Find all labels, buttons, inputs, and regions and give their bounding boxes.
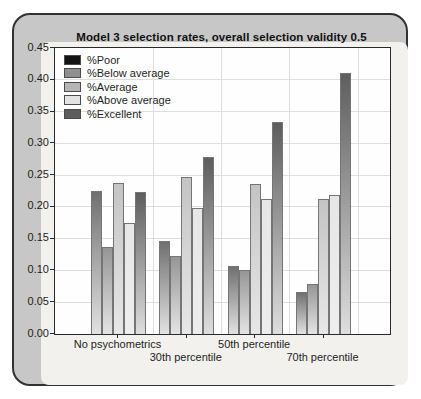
- group-boundary-gridline: [358, 48, 359, 334]
- legend: %Poor%Below average%Average%Above averag…: [64, 53, 171, 121]
- screenshot-page: Model 3 selection rates, overall selecti…: [0, 0, 421, 399]
- bar-below-average: [170, 256, 181, 334]
- x-category-label: 50th percentile: [184, 338, 324, 350]
- legend-item: %Below average: [64, 67, 171, 81]
- legend-label: %Above average: [87, 94, 171, 106]
- y-tick-mark: [50, 301, 54, 302]
- chart-title: Model 3 selection rates, overall selecti…: [44, 31, 399, 43]
- legend-item: %Poor: [64, 53, 171, 67]
- bar-average: [113, 183, 124, 334]
- y-tick-mark: [50, 47, 54, 48]
- y-tick-label: 0.25: [8, 169, 49, 180]
- y-tick-mark: [50, 333, 54, 334]
- bar-above-average: [261, 199, 272, 334]
- bar-excellent: [272, 122, 283, 334]
- bar-average: [318, 199, 329, 334]
- bar-poor: [159, 241, 170, 334]
- y-tick-label: 0.45: [8, 42, 49, 53]
- y-tick-mark: [50, 79, 54, 80]
- y-tick-label: 0.40: [8, 73, 49, 84]
- y-tick-label: 0.15: [8, 232, 49, 243]
- y-tick-mark: [50, 269, 54, 270]
- y-tick-label: 0.35: [8, 105, 49, 116]
- legend-swatch-average: [64, 82, 81, 92]
- legend-label: %Below average: [87, 67, 170, 79]
- bar-below-average: [102, 247, 113, 334]
- bar-above-average: [192, 208, 203, 334]
- bar-excellent: [340, 73, 351, 334]
- bar-below-average: [307, 284, 318, 334]
- bar-average: [181, 177, 192, 334]
- x-category-label: No psychometrics: [47, 338, 187, 350]
- bar-group: [289, 48, 357, 334]
- legend-swatch-poor: [64, 55, 81, 65]
- bar-group: [221, 48, 289, 334]
- legend-swatch-below-average: [64, 68, 81, 78]
- bar-average: [250, 184, 261, 334]
- bar-above-average: [124, 223, 135, 334]
- bar-below-average: [239, 270, 250, 334]
- y-tick-mark: [50, 111, 54, 112]
- legend-item: %Average: [64, 80, 171, 94]
- legend-swatch-excellent: [64, 109, 81, 119]
- legend-item: %Excellent: [64, 107, 171, 121]
- x-tick-mark: [323, 334, 324, 338]
- bar-excellent: [135, 192, 146, 334]
- bar-poor: [91, 191, 102, 334]
- y-tick-mark: [50, 206, 54, 207]
- bar-poor: [296, 292, 307, 334]
- y-tick-label: 0.30: [8, 137, 49, 148]
- legend-label: %Poor: [87, 54, 120, 66]
- y-tick-label: 0.10: [8, 264, 49, 275]
- x-category-label: 30th percentile: [116, 351, 256, 363]
- bar-above-average: [329, 195, 340, 334]
- legend-swatch-above-average: [64, 95, 81, 105]
- legend-label: %Average: [87, 81, 138, 93]
- y-tick-label: 0.20: [8, 200, 49, 211]
- bar-poor: [228, 266, 239, 334]
- y-tick-mark: [50, 238, 54, 239]
- bar-excellent: [203, 157, 214, 334]
- y-tick-label: 0.05: [8, 296, 49, 307]
- y-tick-label: 0.00: [8, 328, 49, 339]
- y-tick-mark: [50, 142, 54, 143]
- y-tick-mark: [50, 174, 54, 175]
- legend-label: %Excellent: [87, 108, 141, 120]
- x-category-label: 70th percentile: [253, 351, 393, 363]
- legend-item: %Above average: [64, 94, 171, 108]
